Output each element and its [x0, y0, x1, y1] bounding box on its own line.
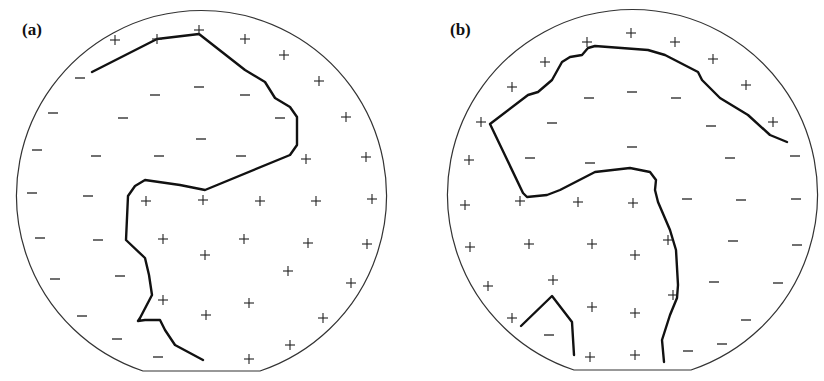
plus-sign-icon — [201, 310, 211, 320]
plus-sign-icon — [367, 194, 377, 204]
plus-sign-icon — [346, 278, 356, 288]
plus-sign-icon — [573, 197, 583, 207]
plus-sign-icon — [303, 238, 313, 248]
plus-sign-icon — [285, 340, 295, 350]
plus-sign-icon — [670, 37, 680, 47]
wafer-outline — [17, 10, 387, 371]
plus-sign-icon — [515, 196, 525, 206]
plus-sign-icon — [483, 281, 493, 291]
plus-sign-icon — [582, 37, 592, 47]
plus-sign-icon — [158, 234, 168, 244]
plus-sign-icon — [279, 50, 289, 60]
plus-sign-icon — [255, 196, 265, 206]
plus-sign-icon — [585, 352, 595, 362]
plus-sign-icon — [524, 239, 534, 249]
plus-sign-icon — [628, 198, 638, 208]
plus-sign-icon — [507, 313, 517, 323]
panel-a — [17, 10, 387, 371]
plus-sign-icon — [587, 302, 597, 312]
plus-sign-icon — [152, 34, 162, 44]
plus-sign-icon — [283, 266, 293, 276]
plus-sign-icon — [141, 196, 151, 206]
plus-sign-icon — [244, 298, 254, 308]
plus-sign-icon — [460, 200, 470, 210]
plus-sign-icon — [630, 350, 640, 360]
plus-sign-icon — [240, 34, 250, 44]
plus-sign-icon — [198, 195, 208, 205]
plus-sign-icon — [630, 250, 640, 260]
domain-boundary-line — [92, 34, 297, 360]
panel-b — [448, 9, 818, 370]
plus-sign-icon — [476, 117, 486, 127]
plus-sign-icon — [158, 295, 168, 305]
plus-sign-icon — [311, 196, 321, 206]
plus-sign-icon — [362, 239, 372, 249]
plus-sign-icon — [110, 35, 120, 45]
plus-sign-icon — [587, 239, 597, 249]
plus-sign-icon — [540, 57, 550, 67]
plus-sign-icon — [244, 354, 254, 364]
domain-boundary-line — [521, 296, 574, 355]
plus-sign-icon — [200, 250, 210, 260]
plus-sign-icon — [626, 28, 636, 38]
plus-sign-icon — [239, 234, 249, 244]
plus-sign-icon — [361, 152, 371, 162]
plus-sign-icon — [630, 308, 640, 318]
plus-sign-icon — [341, 112, 351, 122]
wafer-outline — [448, 9, 818, 370]
plus-sign-icon — [741, 80, 751, 90]
domain-boundary-line — [490, 46, 787, 362]
plus-sign-icon — [768, 117, 778, 127]
plus-sign-icon — [708, 54, 718, 64]
plus-sign-icon — [314, 76, 324, 86]
plus-sign-icon — [548, 275, 558, 285]
plus-sign-icon — [464, 155, 474, 165]
plus-sign-icon — [301, 154, 311, 164]
plus-sign-icon — [318, 313, 328, 323]
plus-sign-icon — [465, 242, 475, 252]
diagram-canvas — [0, 0, 824, 381]
plus-sign-icon — [507, 82, 517, 92]
